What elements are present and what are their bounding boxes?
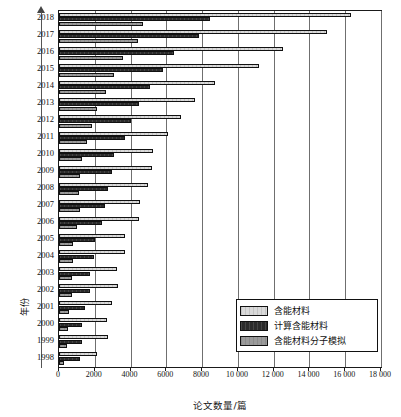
- bar: [59, 174, 80, 178]
- y-tick-label: 2018: [18, 13, 54, 22]
- y-tick-label: 2001: [18, 302, 54, 311]
- legend-label: 含能材料分子模拟: [274, 334, 346, 347]
- bar: [59, 124, 92, 128]
- bar: [59, 140, 87, 144]
- bar-group: [59, 45, 381, 62]
- bar-group: [59, 197, 381, 214]
- x-tick-label: 10 000: [226, 370, 248, 379]
- legend-item: 含能材料分子模拟: [240, 333, 374, 348]
- bar: [59, 310, 69, 314]
- bar: [59, 361, 64, 365]
- bar-group: [59, 147, 381, 164]
- x-tick-label: 4000: [122, 370, 138, 379]
- y-tick-label: 2015: [18, 64, 54, 73]
- y-tick-label: 2000: [18, 319, 54, 328]
- y-tick-label: 2010: [18, 149, 54, 158]
- bar: [59, 259, 73, 263]
- legend-item: 含能材料: [240, 303, 374, 318]
- y-tick-label: 2009: [18, 166, 54, 175]
- y-tick-label: 2016: [18, 47, 54, 56]
- bar: [59, 225, 77, 229]
- y-tick-label: 2014: [18, 81, 54, 90]
- x-tick-mark: [94, 368, 95, 371]
- y-tick-label: 2008: [18, 183, 54, 192]
- legend-swatch-icon: [240, 321, 268, 331]
- bar-group: [59, 11, 381, 28]
- y-tick-label: 2012: [18, 115, 54, 124]
- bar-group: [59, 62, 381, 79]
- bar-group: [59, 164, 381, 181]
- bar: [59, 90, 106, 94]
- y-tick-label: 2013: [18, 98, 54, 107]
- bar: [59, 56, 123, 60]
- legend-label: 计算含能材料: [274, 319, 328, 332]
- x-tick-label: 0: [56, 370, 60, 379]
- x-tick-label: 18 000: [369, 370, 391, 379]
- legend-swatch-icon: [240, 336, 268, 346]
- bar: [59, 73, 114, 77]
- x-tick-mark: [130, 368, 131, 371]
- x-axis-label: 论文数量/篇: [58, 398, 382, 412]
- x-tick-label: 14 000: [297, 370, 319, 379]
- bar: [59, 208, 80, 212]
- bar: [59, 191, 79, 195]
- legend-item: 计算含能材料: [240, 318, 374, 333]
- x-tick-label: 2000: [86, 370, 102, 379]
- bar: [59, 276, 72, 280]
- bar: [59, 242, 73, 246]
- y-tick-label: 2004: [18, 251, 54, 260]
- y-tick-label: 2003: [18, 268, 54, 277]
- bar: [59, 22, 143, 26]
- x-tick-label: 6000: [157, 370, 173, 379]
- bar-group: [59, 181, 381, 198]
- x-tick-mark: [58, 368, 59, 371]
- x-tick-label: 16 000: [333, 370, 355, 379]
- chart-legend: 含能材料 计算含能材料 含能材料分子模拟: [236, 299, 378, 352]
- bar-group: [59, 248, 381, 265]
- bar-group: [59, 28, 381, 45]
- bar: [59, 344, 67, 348]
- x-tick-label: 8000: [193, 370, 209, 379]
- bar-chart: 年份 2018201720162015201420132012201120102…: [0, 0, 401, 417]
- y-tick-label: 1998: [18, 353, 54, 362]
- y-tick-label: 2002: [18, 285, 54, 294]
- x-tick-mark: [165, 368, 166, 371]
- bar: [59, 293, 72, 297]
- x-tick-label: 12 000: [262, 370, 284, 379]
- y-tick-label: 2005: [18, 234, 54, 243]
- bar-group: [59, 282, 381, 299]
- gridline: [381, 11, 382, 367]
- x-tick-mark: [344, 368, 345, 371]
- bar: [59, 107, 97, 111]
- y-tick-label: 2011: [18, 132, 54, 141]
- legend-label: 含能材料: [274, 304, 310, 317]
- bar-group: [59, 265, 381, 282]
- x-tick-mark: [308, 368, 309, 371]
- legend-swatch-icon: [240, 306, 268, 316]
- y-tick-label: 1999: [18, 336, 54, 345]
- x-tick-mark: [273, 368, 274, 371]
- x-tick-mark: [201, 368, 202, 371]
- y-tick-labels: 2018201720162015201420132012201120102009…: [0, 10, 54, 368]
- bar-group: [59, 231, 381, 248]
- bar: [59, 327, 68, 331]
- bar-group: [59, 113, 381, 130]
- x-tick-mark: [380, 368, 381, 371]
- x-tick-mark: [237, 368, 238, 371]
- y-tick-label: 2017: [18, 30, 54, 39]
- bar: [59, 39, 138, 43]
- y-tick-label: 2007: [18, 200, 54, 209]
- y-tick-label: 2006: [18, 217, 54, 226]
- bar-group: [59, 79, 381, 96]
- bar-group: [59, 214, 381, 231]
- bar-group: [59, 130, 381, 147]
- bar: [59, 157, 82, 161]
- bar-group: [59, 350, 381, 367]
- bar-group: [59, 96, 381, 113]
